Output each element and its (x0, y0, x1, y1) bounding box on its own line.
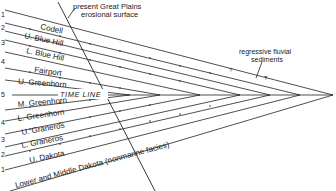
seq-number-lower-1: 1 (1, 166, 5, 173)
unit-u-greenhorn: U. Greenhorn (18, 77, 67, 89)
seq-number-2: 2 (1, 24, 5, 31)
erosional-surface-label-2: erosional surface (81, 10, 138, 19)
seq-number-lower-4: 4 (1, 119, 5, 126)
unit-fairport: Fairport (34, 65, 63, 78)
regressive-label-1: regressive fluvial (239, 48, 292, 56)
question-mark-1: ? (229, 67, 233, 73)
unit-l-blue-hill: L. Blue Hill (26, 46, 65, 63)
unit-m-greenhorn: M. Greenhorn (17, 96, 67, 109)
seq-number-lower-3: 3 (1, 136, 5, 143)
seq-number-4: 4 (1, 58, 5, 65)
unit-u-dakota: U. Dakota (29, 149, 66, 165)
seq-number-5: 5 (1, 91, 5, 98)
regressive-label-2: sediments (251, 56, 283, 63)
seq-number-1: 1 (1, 11, 5, 18)
seq-number-lower-2: 2 (1, 151, 5, 158)
stratigraphic-diagram: present Great Plains erosional surface r… (0, 0, 336, 191)
seq-number-3: 3 (1, 39, 5, 46)
